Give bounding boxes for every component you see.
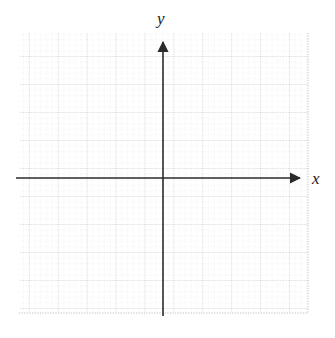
x-axis-label: x [312,170,320,187]
coordinate-plane-figure: y x [0,0,335,338]
grid-and-axes-canvas [0,0,335,338]
y-axis-label: y [157,10,165,27]
